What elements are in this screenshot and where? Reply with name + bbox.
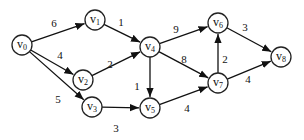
edge-weight-label: 2 [222,53,228,65]
edge-weight-label: 4 [57,49,63,61]
node-v6: v6 [208,13,228,33]
node-v5: v5 [140,98,160,118]
arrow-icon [102,107,139,108]
edge-v0-v1 [31,24,84,42]
edge-v3-v5 [102,107,139,108]
edge-weight-label: 2 [107,58,113,70]
edge-weight-label: 3 [242,21,248,33]
node-v8: v8 [271,47,291,67]
edge-weight-label: 5 [55,93,61,105]
node-v1: v1 [85,10,105,30]
node-v7: v7 [208,73,228,93]
edge-weight-label: 4 [245,73,251,85]
arrow-icon [31,24,84,42]
edges [29,24,271,108]
edge-v4-v6 [159,27,207,44]
edge-weight-label: 9 [173,23,179,35]
edge-weight-label: 6 [51,17,57,29]
node-v0: v0 [12,35,32,55]
edge-weight-label: 3 [113,122,119,134]
node-v4: v4 [140,37,160,57]
arrow-icon [92,52,140,76]
arrow-icon [227,28,272,52]
directed-graph: 6451231984234 v0v1v2v3v4v5v6v7v8 [0,0,304,140]
edge-weight-label: 4 [184,102,190,114]
edge-weight-label: 1 [134,80,140,92]
edge-weight-label: 8 [181,53,187,65]
edge-weight-label: 1 [118,16,124,28]
node-v3: v3 [82,97,102,117]
edge-v2-v4 [92,52,140,76]
arrow-icon [159,27,207,44]
node-v2: v2 [73,70,93,90]
edge-v6-v8 [227,28,272,52]
